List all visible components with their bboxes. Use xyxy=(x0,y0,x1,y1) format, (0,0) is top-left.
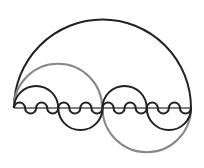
diagram-canvas xyxy=(0,0,204,168)
semicircle-diagram xyxy=(0,0,204,168)
large-semicircle xyxy=(14,19,191,108)
